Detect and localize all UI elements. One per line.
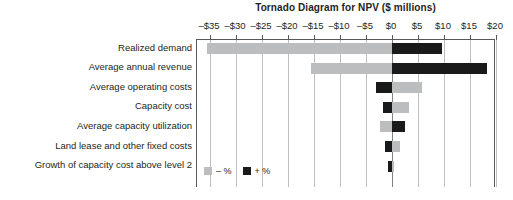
gridline <box>496 40 497 187</box>
chart-title: Tornado Diagram for NPV ($ millions) <box>196 2 495 13</box>
bar-segment-positive <box>388 161 392 172</box>
x-tick-label: –$10 <box>328 20 349 31</box>
bar-row <box>197 121 494 132</box>
tornado-chart: Tornado Diagram for NPV ($ millions) –$3… <box>0 0 513 200</box>
x-tick-label: $15 <box>461 20 477 31</box>
x-tick-label: –$30 <box>224 20 245 31</box>
bar-segment-negative <box>380 121 392 132</box>
bar-row <box>197 63 494 74</box>
x-tick-label: $0 <box>386 20 397 31</box>
bar-row <box>197 102 494 113</box>
bar-segment-negative <box>392 161 394 172</box>
bar-segment-positive <box>392 121 405 132</box>
bar-segment-positive <box>392 63 487 74</box>
bar-segment-negative <box>207 43 392 54</box>
plot-area <box>196 39 495 187</box>
chart-legend: – %+ % <box>204 166 270 176</box>
bar-row <box>197 82 494 93</box>
category-label: Growth of capacity cost above level 2 <box>0 159 192 170</box>
bar-segment-negative <box>392 82 422 93</box>
bar-row <box>197 141 494 152</box>
x-tick-label: $10 <box>435 20 451 31</box>
x-tick-label: –$15 <box>302 20 323 31</box>
legend-label: – % <box>216 166 232 176</box>
category-label: Realized demand <box>0 42 192 53</box>
bar-rows <box>197 40 494 187</box>
bar-segment-negative <box>311 63 392 74</box>
legend-item: – % <box>204 166 232 176</box>
bar-segment-positive <box>392 43 442 54</box>
category-label: Average capacity utilization <box>0 120 192 131</box>
x-axis-tick-labels: –$35–$30–$25–$20–$15–$10–$5$0$5$10$15$20 <box>0 20 513 36</box>
x-tick-label: –$5 <box>357 20 373 31</box>
bar-segment-negative <box>392 102 409 113</box>
category-label: Average annual revenue <box>0 61 192 72</box>
bar-segment-positive <box>385 141 392 152</box>
legend-item: + % <box>243 166 271 176</box>
legend-swatch-negative <box>204 167 212 175</box>
legend-label: + % <box>255 166 271 176</box>
bar-segment-positive <box>376 82 392 93</box>
x-tick-label: –$25 <box>250 20 271 31</box>
bar-row <box>197 43 494 54</box>
x-tick-label: –$20 <box>276 20 297 31</box>
legend-swatch-positive <box>243 167 251 175</box>
category-label: Land lease and other fixed costs <box>0 140 192 151</box>
bar-segment-negative <box>392 141 400 152</box>
category-label: Capacity cost <box>0 100 192 111</box>
category-label: Average operating costs <box>0 81 192 92</box>
x-tick-label: $20 <box>487 20 503 31</box>
category-labels: Realized demandAverage annual revenueAve… <box>0 39 192 187</box>
bar-segment-positive <box>383 102 392 113</box>
x-tick-label: –$35 <box>198 20 219 31</box>
x-tick-label: $5 <box>412 20 423 31</box>
